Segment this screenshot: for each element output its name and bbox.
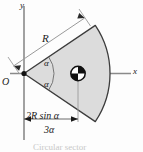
- angle-label-lower: α: [44, 80, 49, 89]
- x-axis-label: x: [133, 67, 137, 76]
- sector-shape: [24, 25, 110, 121]
- origin-point: [21, 71, 26, 76]
- origin-label: O: [2, 77, 9, 87]
- figure-caption: Circular sector: [33, 142, 86, 152]
- dimension-numerator: 2R sin α: [26, 110, 59, 121]
- figure-canvas: [0, 0, 143, 152]
- angle-label-upper: α: [44, 59, 49, 68]
- radius-label: R: [42, 33, 49, 44]
- centroid-symbol-icon: [71, 66, 85, 80]
- circular-sector-figure: y x O R α α 2R sin α 3α Circular sector: [0, 0, 143, 152]
- dimension-denominator: 3α: [44, 124, 54, 135]
- arrowhead-icon: [71, 116, 78, 122]
- y-axis-label: y: [20, 1, 24, 10]
